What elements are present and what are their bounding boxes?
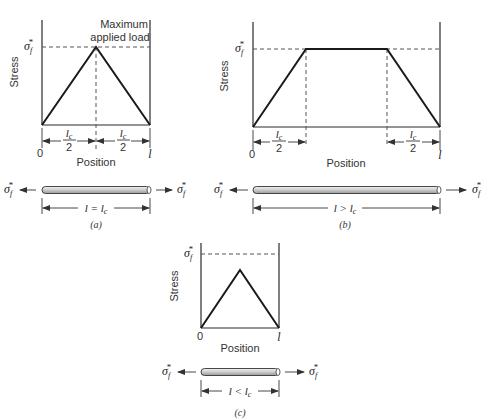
length-label: l (148, 147, 152, 161)
length-label: l (277, 330, 281, 344)
caption-a: (a) (90, 219, 102, 231)
stress-profile (201, 270, 279, 328)
annotation-line1: Maximum (100, 18, 148, 30)
origin-label: 0 (197, 330, 203, 342)
lc-label: lc (410, 128, 417, 142)
rod-end (147, 187, 151, 194)
half-denominator: 2 (276, 142, 282, 154)
lc-label: lc (276, 128, 283, 142)
panel-c-rod: σf* σf* l < lc (162, 362, 319, 399)
panel-c-plot: σf* Stress 0 l Position (168, 243, 281, 354)
sigma-f-right: σf* (177, 180, 187, 198)
fiber-rod (201, 369, 279, 376)
origin-label: 0 (249, 148, 255, 160)
origin-label: 0 (37, 147, 43, 159)
fiber-rod (253, 187, 440, 194)
lc-label: lc (66, 127, 73, 141)
sigma-f-label: σf* (235, 39, 245, 57)
stress-profile (253, 49, 440, 127)
rod-relation: l = lc (85, 202, 108, 216)
half-denominator: 2 (120, 141, 126, 153)
y-axis-label: Stress (218, 60, 230, 92)
x-axis-label: Position (326, 157, 365, 169)
half-denominator: 2 (66, 141, 72, 153)
panel-a-plot: σf* Maximum applied load Stress lc 2 lc … (8, 18, 152, 168)
sigma-f-label: σf* (24, 37, 34, 55)
sigma-f-left: σf* (162, 362, 172, 380)
sigma-f-right: σf* (309, 362, 319, 380)
fiber-rod (42, 187, 150, 194)
caption-b: (b) (339, 219, 351, 231)
sigma-f-left: σf* (214, 180, 224, 198)
rod-end (276, 369, 280, 376)
panel-a: σf* Maximum applied load Stress lc 2 lc … (4, 18, 187, 231)
panel-b-rod: σf* σf* l > lc (214, 180, 482, 216)
fiber-stress-diagram: σf* Maximum applied load Stress lc 2 lc … (0, 0, 496, 420)
y-axis-label: Stress (168, 270, 180, 302)
caption-c: (c) (234, 407, 246, 419)
lc-label: lc (120, 127, 127, 141)
x-axis-label: Position (76, 156, 115, 168)
panel-c: σf* Stress 0 l Position σf* σf* l < lc (… (162, 243, 319, 419)
sigma-f-right: σf* (472, 180, 482, 198)
panel-b: σf* Stress lc 2 lc 2 0 l Position σf* σf… (214, 22, 482, 231)
half-denominator: 2 (410, 142, 416, 154)
length-label: l (438, 148, 442, 162)
rod-end (437, 187, 441, 194)
y-axis-label: Stress (8, 56, 20, 88)
rod-relation: l > lc (334, 202, 357, 216)
sigma-f-label: σf* (184, 244, 194, 262)
rod-relation: l < lc (229, 385, 252, 399)
annotation-line2: applied load (90, 31, 149, 43)
panel-a-rod: σf* σf* l = lc (4, 180, 187, 216)
sigma-f-left: σf* (4, 180, 14, 198)
panel-b-plot: σf* Stress lc 2 lc 2 0 l Position (218, 22, 442, 169)
x-axis-label: Position (220, 342, 259, 354)
